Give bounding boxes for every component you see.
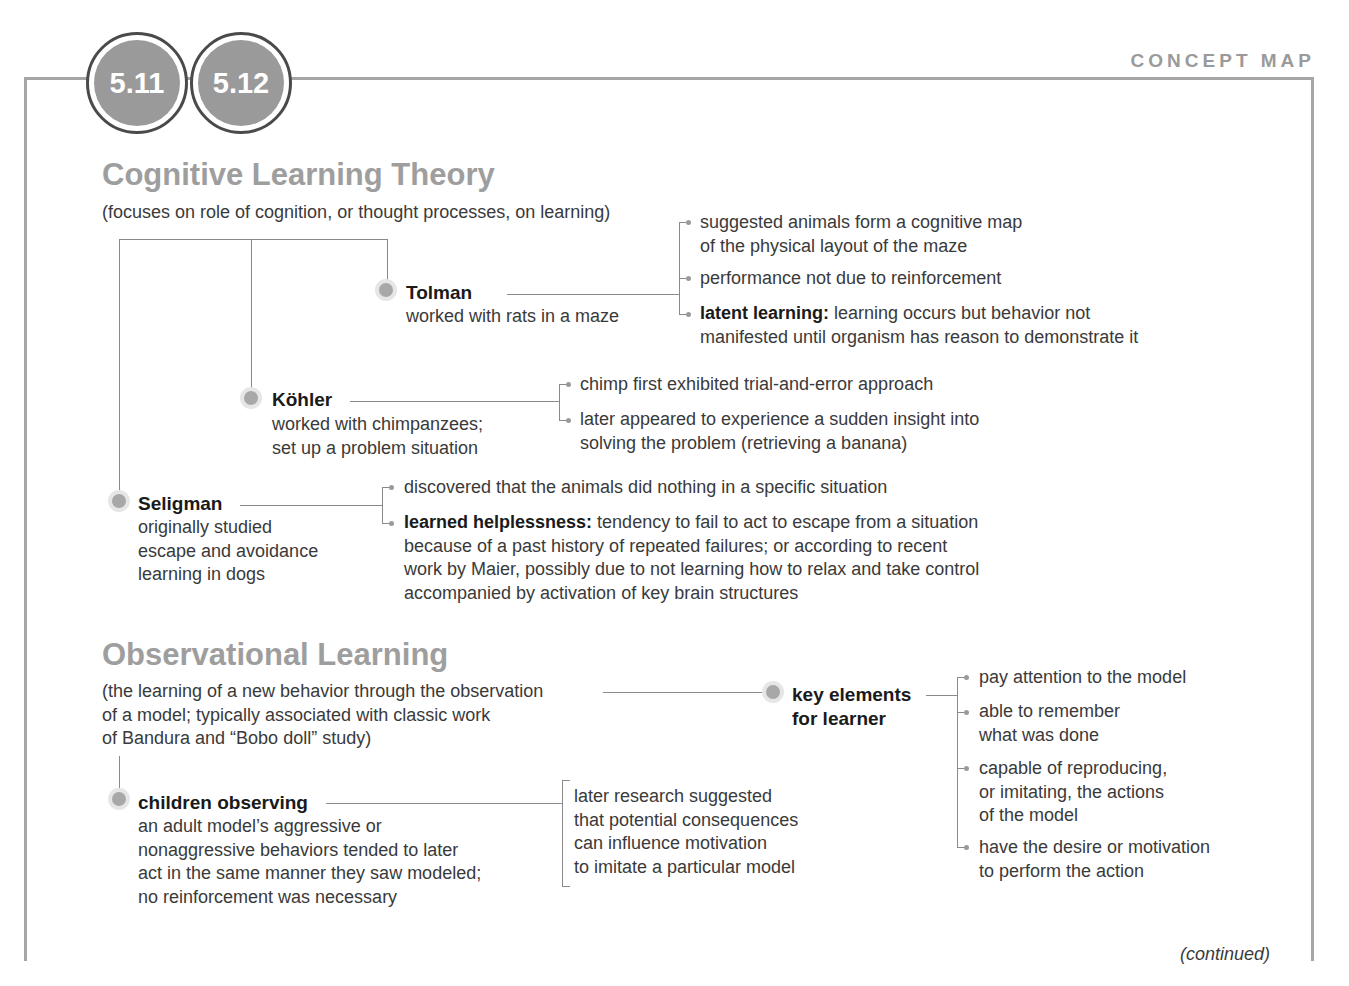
tolman-point-2: performance not due to reinforcement	[700, 267, 1001, 291]
bracket-tick	[562, 886, 570, 887]
bullet-dot-icon	[686, 220, 691, 225]
bullet-dot-icon	[389, 521, 394, 526]
text-line: that potential consequences	[574, 809, 798, 833]
bullet-dot-icon	[686, 276, 691, 281]
text-line: work by Maier, possibly due to not learn…	[404, 558, 979, 582]
key-element-2: able to remember what was done	[979, 700, 1120, 747]
text-line: set up a problem situation	[272, 437, 483, 461]
concept-map-label: CONCEPT MAP	[1131, 50, 1315, 72]
text-line: solving the problem (retrieving a banana…	[580, 432, 979, 456]
bracket-line	[679, 222, 680, 314]
bullet-dot-icon	[686, 312, 691, 317]
text-line: of a model; typically associated with cl…	[102, 704, 543, 728]
children-research-note: later research suggested that potential …	[574, 785, 798, 879]
seligman-point-1: discovered that the animals did nothing …	[404, 476, 887, 500]
badge-label: 5.12	[198, 40, 284, 126]
connector-line	[251, 239, 252, 397]
bracket-line	[382, 487, 383, 523]
text-line: to perform the action	[979, 860, 1210, 884]
bullet-dot-icon	[964, 766, 969, 771]
text-line: learning occurs but behavior not	[829, 303, 1090, 323]
text-line: later appeared to experience a sudden in…	[580, 408, 979, 432]
node-children-observing-name: children observing	[138, 791, 308, 815]
bracket-line	[957, 677, 958, 847]
node-dot-icon	[244, 391, 258, 405]
seligman-point-2: learned helplessness: tendency to fail t…	[404, 511, 979, 605]
text-line: nonaggressive behaviors tended to later	[138, 839, 481, 863]
connector-line	[119, 239, 387, 240]
node-tolman-desc: worked with rats in a maze	[406, 305, 619, 329]
node-dot-icon	[766, 685, 780, 699]
text-line: key elements	[792, 683, 911, 707]
connector-line	[119, 756, 120, 792]
node-kohler-desc: worked with chimpanzees; set up a proble…	[272, 413, 483, 460]
connector-line	[387, 239, 388, 289]
section-subtitle-cognitive: (focuses on role of cognition, or though…	[102, 201, 610, 225]
node-tolman-name: Tolman	[406, 281, 472, 305]
text-line: act in the same manner they saw modeled;	[138, 862, 481, 886]
bullet-dot-icon	[566, 418, 571, 423]
node-dot-icon	[379, 283, 393, 297]
node-kohler-name: Köhler	[272, 388, 332, 412]
text-line: no reinforcement was necessary	[138, 886, 481, 910]
connector-line	[240, 505, 382, 506]
node-dot-icon	[112, 792, 126, 806]
connector-line	[326, 803, 562, 804]
connector-line	[119, 239, 120, 501]
frame-left-border	[24, 77, 27, 961]
key-element-3: capable of reproducing, or imitating, th…	[979, 757, 1167, 828]
node-key-elements-name: key elements for learner	[792, 683, 911, 730]
text-line: because of a past history of repeated fa…	[404, 535, 979, 559]
badge-label: 5.11	[94, 40, 180, 126]
text-line: manifested until organism has reason to …	[700, 326, 1138, 350]
connector-line	[507, 294, 679, 295]
tolman-point-1: suggested animals form a cognitive map o…	[700, 211, 1022, 258]
bullet-dot-icon	[389, 485, 394, 490]
text-line: suggested animals form a cognitive map	[700, 211, 1022, 235]
text-line: escape and avoidance	[138, 540, 318, 564]
key-element-4: have the desire or motivation to perform…	[979, 836, 1210, 883]
text-line: later research suggested	[574, 785, 798, 809]
text-line: learning in dogs	[138, 563, 318, 587]
text-line: capable of reproducing,	[979, 757, 1167, 781]
bullet-dot-icon	[964, 710, 969, 715]
text-line: what was done	[979, 724, 1120, 748]
text-line: of the physical layout of the maze	[700, 235, 1022, 259]
text-line: worked with chimpanzees;	[272, 413, 483, 437]
bullet-dot-icon	[964, 675, 969, 680]
section-badge-5-11: 5.11	[86, 32, 188, 134]
section-badge-5-12: 5.12	[190, 32, 292, 134]
bullet-dot-icon	[964, 845, 969, 850]
term-latent-learning: latent learning:	[700, 303, 829, 323]
continued-label: (continued)	[1180, 944, 1270, 965]
node-seligman-name: Seligman	[138, 492, 222, 516]
kohler-point-1: chimp first exhibited trial-and-error ap…	[580, 373, 933, 397]
text-line: an adult model’s aggressive or	[138, 815, 481, 839]
term-learned-helplessness: learned helplessness:	[404, 512, 592, 532]
text-line: to imitate a particular model	[574, 856, 798, 880]
section-title-cognitive: Cognitive Learning Theory	[102, 157, 495, 193]
bullet-dot-icon	[566, 382, 571, 387]
bracket-line	[562, 780, 563, 886]
section-subtitle-observational: (the learning of a new behavior through …	[102, 680, 543, 751]
tolman-point-3: latent learning: learning occurs but beh…	[700, 302, 1138, 349]
node-children-observing-desc: an adult model’s aggressive or nonaggres…	[138, 815, 481, 909]
text-line: for learner	[792, 707, 911, 731]
text-line: originally studied	[138, 516, 318, 540]
node-seligman-desc: originally studied escape and avoidance …	[138, 516, 318, 587]
text-line: can influence motivation	[574, 832, 798, 856]
section-title-observational: Observational Learning	[102, 637, 448, 673]
key-element-1: pay attention to the model	[979, 666, 1186, 690]
text-line: tendency to fail to act to escape from a…	[592, 512, 978, 532]
connector-line	[350, 401, 559, 402]
node-dot-icon	[112, 494, 126, 508]
text-line: have the desire or motivation	[979, 836, 1210, 860]
text-line: of Bandura and “Bobo doll” study)	[102, 727, 543, 751]
bracket-tick	[562, 780, 570, 781]
connector-line	[603, 692, 763, 693]
frame-right-border	[1311, 77, 1314, 961]
bracket-line	[559, 384, 560, 420]
text-line: or imitating, the actions	[979, 781, 1167, 805]
kohler-point-2: later appeared to experience a sudden in…	[580, 408, 979, 455]
connector-line	[926, 695, 957, 696]
